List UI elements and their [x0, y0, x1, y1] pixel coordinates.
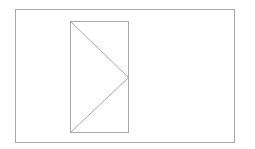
inner-rectangle [71, 22, 129, 133]
play-triangle-shape [71, 22, 129, 133]
outer-frame [16, 10, 235, 143]
diagram-canvas [0, 0, 255, 149]
